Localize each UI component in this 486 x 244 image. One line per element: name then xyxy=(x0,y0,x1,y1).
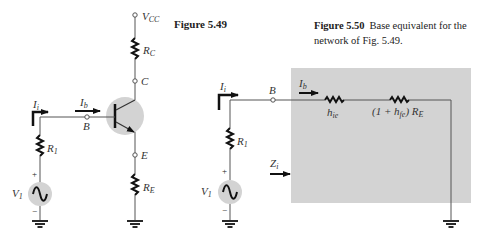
svg-text:Ib: Ib xyxy=(79,96,88,110)
svg-text:C: C xyxy=(141,75,149,87)
r1-resistor xyxy=(227,128,233,149)
ii-current-arrow-icon xyxy=(219,95,238,110)
svg-text:RC: RC xyxy=(142,44,156,58)
svg-text:B: B xyxy=(269,84,276,96)
svg-text:Ii: Ii xyxy=(32,98,39,112)
b-terminal xyxy=(85,115,89,119)
circuit-diagram: VCC RC C B E RE Ii Ib R1 V1 + − Figure 5… xyxy=(0,0,486,244)
svg-text:(1 + hfe) RE: (1 + hfe) RE xyxy=(372,105,424,119)
svg-text:RE: RE xyxy=(142,181,155,195)
b-terminal xyxy=(271,98,275,102)
ground-icon xyxy=(127,221,143,227)
figure-5-50-caption: network of Fig. 5.49. xyxy=(314,35,403,46)
transistor-body xyxy=(106,97,144,135)
ground-icon xyxy=(222,221,238,227)
r1-resistor xyxy=(37,135,43,156)
svg-text:Zi: Zi xyxy=(270,157,278,171)
vcc-terminal xyxy=(133,13,137,17)
figure-5-50-circuit: Figure 5.50Base equivalent for the netwo… xyxy=(201,20,471,227)
svg-text:−: − xyxy=(222,205,227,215)
svg-text:Ii: Ii xyxy=(219,80,226,94)
c-terminal xyxy=(133,79,137,83)
rc-resistor xyxy=(132,38,138,59)
ground-icon xyxy=(443,221,459,227)
svg-text:V1: V1 xyxy=(201,185,212,199)
svg-text:V1: V1 xyxy=(12,187,23,201)
svg-text:E: E xyxy=(140,149,148,161)
figure-5-50-title: Figure 5.50Base equivalent for the xyxy=(314,20,467,31)
re-resistor xyxy=(132,174,138,195)
svg-text:+: + xyxy=(32,169,37,179)
ground-icon xyxy=(32,221,48,227)
e-terminal xyxy=(133,153,137,157)
svg-text:R1: R1 xyxy=(236,135,248,149)
svg-text:+: + xyxy=(222,166,227,176)
figure-5-49-circuit: VCC RC C B E RE Ii Ib R1 V1 + − Figure 5… xyxy=(12,10,227,227)
svg-text:−: − xyxy=(32,206,37,216)
base-equivalent-box xyxy=(291,68,471,203)
svg-text:B: B xyxy=(83,120,90,132)
figure-5-49-title: Figure 5.49 xyxy=(174,18,227,30)
svg-text:VCC: VCC xyxy=(142,10,160,24)
svg-text:R1: R1 xyxy=(46,142,58,156)
